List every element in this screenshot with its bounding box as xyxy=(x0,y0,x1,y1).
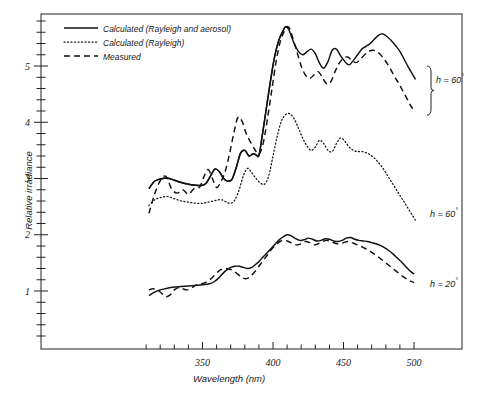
x-tick-label-400: 400 xyxy=(266,357,281,368)
group-label-bottom-degree: ° xyxy=(455,277,458,284)
y-tick-label-1: 1 xyxy=(25,286,30,297)
group-label-middle: h = 60° xyxy=(430,207,458,219)
legend-item-calc-rayleigh-aerosol-label: Calculated (Rayleigh and aerosol) xyxy=(103,24,231,34)
chart-background xyxy=(0,0,496,395)
figure-container: 35040045050012345 Calculated (Rayleigh a… xyxy=(0,0,496,395)
x-axis-title: Wavelength (nm) xyxy=(193,373,265,384)
group-label-bottom-text: h = 20 xyxy=(430,279,455,289)
x-tick-label-350: 350 xyxy=(194,357,210,368)
group-label-top-text: h = 60 xyxy=(436,75,461,85)
y-axis-title: Relative irradiance xyxy=(23,131,34,251)
y-tick-label-4: 4 xyxy=(25,117,30,128)
group-label-top: h = 60° xyxy=(436,73,464,85)
chart-svg: 35040045050012345 xyxy=(0,0,496,395)
x-tick-label-500: 500 xyxy=(407,357,422,368)
x-tick-label-450: 450 xyxy=(336,357,351,368)
group-label-middle-text: h = 60 xyxy=(430,209,455,219)
y-tick-label-5: 5 xyxy=(25,61,30,72)
legend-item-calc-rayleigh-label: Calculated (Rayleigh) xyxy=(103,38,184,48)
group-label-middle-degree: ° xyxy=(455,207,458,214)
group-label-top-degree: ° xyxy=(461,73,464,80)
group-label-bottom: h = 20° xyxy=(430,277,458,289)
legend-item-measured-label: Measured xyxy=(103,52,141,62)
